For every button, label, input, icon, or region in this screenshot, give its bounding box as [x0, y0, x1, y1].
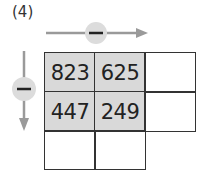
answer-cell[interactable]	[94, 130, 146, 170]
minus-circle-icon	[12, 77, 36, 101]
grid-cell: 823	[44, 52, 96, 93]
grid-cell: 447	[44, 91, 96, 132]
minus-circle-icon	[85, 22, 107, 44]
answer-cell[interactable]	[44, 130, 96, 170]
answer-cell[interactable]	[144, 52, 196, 93]
grid-cell: 249	[94, 91, 146, 132]
answer-cell[interactable]	[144, 91, 196, 132]
grid-cell: 625	[94, 52, 146, 93]
